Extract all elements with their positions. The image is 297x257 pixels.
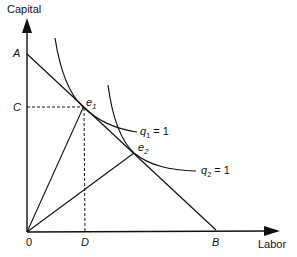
dashed-e1-to-D (84, 108, 85, 232)
isoquant-q1 (55, 38, 137, 132)
x-axis-arrow-icon (264, 226, 280, 236)
q1-rest: = 1 (150, 125, 169, 137)
x-axis-label: Labor (258, 238, 286, 250)
y-axis-arrow-icon (22, 18, 32, 33)
y-axis-label: Capital (7, 3, 41, 15)
point-C-label: C (13, 101, 21, 113)
ray-to-e1 (27, 108, 83, 232)
e2-sub: 2 (143, 147, 149, 156)
isocost-line-AB (27, 54, 216, 230)
q2-rest: = 1 (211, 164, 230, 176)
isoquant-diagram: Capital Labor 0 A C D B e1 e2 q1 = 1 q2 … (0, 0, 297, 257)
isoquant-q1-label: q1 = 1 (140, 125, 169, 140)
ray-to-e2 (27, 153, 134, 232)
e1-sub: 1 (92, 102, 96, 111)
x-axis (27, 231, 268, 232)
point-e2-label: e2 (138, 141, 149, 156)
isoquant-q2-label: q2 = 1 (201, 164, 230, 179)
point-A-label: A (12, 47, 20, 59)
point-e1-label: e1 (86, 96, 96, 111)
point-B-label: B (212, 236, 219, 248)
point-D-label: D (81, 236, 89, 248)
origin-label: 0 (26, 236, 32, 248)
